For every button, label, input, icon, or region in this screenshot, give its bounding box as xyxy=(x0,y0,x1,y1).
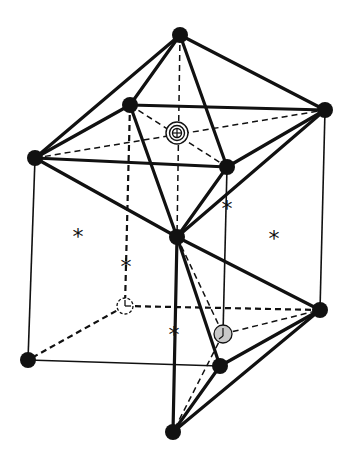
edge xyxy=(28,360,220,366)
atom xyxy=(27,150,43,166)
atom xyxy=(20,352,36,368)
asterisk-marker: * xyxy=(73,224,84,249)
edge xyxy=(28,306,125,360)
bond xyxy=(220,310,320,366)
asterisk-marker: * xyxy=(169,322,180,347)
asterisk-marker: * xyxy=(269,226,280,251)
atom xyxy=(317,102,333,118)
bond xyxy=(130,105,325,110)
atom xyxy=(172,27,188,43)
atom xyxy=(169,229,185,245)
edge xyxy=(125,306,320,310)
asterisk-marker: * xyxy=(121,254,132,279)
atom xyxy=(212,358,228,374)
bond xyxy=(35,105,130,158)
atom xyxy=(219,159,235,175)
bond xyxy=(35,35,180,158)
edge xyxy=(28,158,35,360)
hidden-site-icon xyxy=(117,298,133,314)
atom xyxy=(165,424,181,440)
atom xyxy=(122,97,138,113)
gray-site-icon xyxy=(214,325,232,343)
crystal-structure-diagram: * * * * * xyxy=(0,0,350,464)
atom xyxy=(312,302,328,318)
asterisk-marker: * xyxy=(222,196,233,221)
edge xyxy=(177,237,223,334)
edge xyxy=(320,110,325,310)
bond xyxy=(177,110,325,237)
symmetry-site-icon xyxy=(166,122,188,144)
bond xyxy=(35,158,177,237)
bond xyxy=(35,158,227,167)
